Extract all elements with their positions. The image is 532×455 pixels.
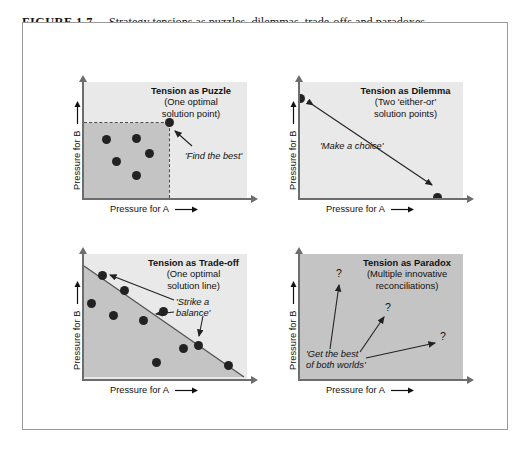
- puzzle-y-axis-label: Pressure for B: [72, 100, 82, 190]
- puzzle-leader-arrow: [84, 82, 247, 198]
- paradox-question-mark: ?: [440, 330, 446, 342]
- puzzle-y-axis: [82, 82, 84, 200]
- tradeoff-leader-arrows: [84, 254, 247, 379]
- tradeoff-y-axis-arrow: [79, 247, 87, 254]
- y-label-arrow-icon: [290, 100, 297, 124]
- paradox-y-axis: [298, 254, 300, 381]
- y-axis-label-text: Pressure for B: [288, 131, 298, 190]
- dilemma-y-axis-arrow: [295, 75, 303, 82]
- x-axis-label-text: Pressure for A: [326, 204, 384, 214]
- paradox-y-axis-label: Pressure for B: [288, 280, 298, 370]
- x-label-arrow-icon: [175, 206, 199, 213]
- dilemma-x-axis-label: Pressure for A: [326, 204, 415, 214]
- puzzle-x-axis-arrow: [251, 195, 258, 203]
- tradeoff-y-axis-label: Pressure for B: [72, 280, 82, 370]
- paradox-plot-area: Tension as Paradox (Multiple innovative …: [300, 254, 463, 379]
- x-axis-label-text: Pressure for A: [110, 204, 168, 214]
- panel-dilemma: Tension as Dilemma (Two 'either-or' solu…: [278, 78, 478, 218]
- x-label-arrow-icon: [391, 206, 415, 213]
- x-axis-label-text: Pressure for A: [110, 385, 168, 395]
- dilemma-annotation: 'Make a choice': [320, 141, 384, 152]
- tradeoff-plot-area: Tension as Trade-off (One optimal soluti…: [84, 254, 247, 379]
- paradox-x-axis-arrow: [467, 376, 474, 384]
- puzzle-y-axis-arrow: [79, 75, 87, 82]
- paradox-x-axis: [298, 379, 468, 381]
- y-axis-label-text: Pressure for B: [72, 311, 82, 370]
- y-label-arrow-icon: [74, 100, 81, 124]
- dilemma-subtitle-1: (Two 'either-or': [375, 96, 436, 107]
- dilemma-caption: Tension as Dilemma (Two 'either-or' solu…: [348, 85, 463, 119]
- tradeoff-x-axis: [82, 379, 252, 381]
- paradox-question-mark: ?: [336, 267, 342, 279]
- dilemma-y-axis-label: Pressure for B: [288, 100, 298, 190]
- y-axis-label-text: Pressure for B: [72, 131, 82, 190]
- dilemma-subtitle-2: solution points): [374, 108, 437, 119]
- dilemma-y-axis: [298, 82, 300, 200]
- paradox-question-mark: ?: [385, 301, 391, 313]
- dilemma-x-axis: [298, 198, 468, 200]
- tradeoff-x-axis-arrow: [251, 376, 258, 384]
- dilemma-title: Tension as Dilemma: [361, 85, 451, 96]
- y-axis-label-text: Pressure for B: [288, 311, 298, 370]
- x-label-arrow-icon: [175, 387, 199, 394]
- x-label-arrow-icon: [391, 387, 415, 394]
- x-axis-label-text: Pressure for A: [326, 385, 384, 395]
- panel-puzzle: Tension as Puzzle (One optimal solution …: [62, 78, 262, 218]
- tradeoff-y-axis: [82, 254, 84, 381]
- panel-tradeoff: Tension as Trade-off (One optimal soluti…: [62, 250, 262, 400]
- puzzle-x-axis-label: Pressure for A: [110, 204, 199, 214]
- dilemma-x-axis-arrow: [467, 195, 474, 203]
- dilemma-plot-area: Tension as Dilemma (Two 'either-or' solu…: [300, 82, 463, 198]
- paradox-y-axis-arrow: [295, 247, 303, 254]
- tradeoff-x-axis-label: Pressure for A: [110, 385, 199, 395]
- puzzle-x-axis: [82, 198, 252, 200]
- paradox-reconciliation-arrows: [300, 254, 463, 379]
- puzzle-plot-area: Tension as Puzzle (One optimal solution …: [84, 82, 247, 198]
- y-label-arrow-icon: [74, 280, 81, 304]
- y-label-arrow-icon: [290, 280, 297, 304]
- paradox-x-axis-label: Pressure for A: [326, 385, 415, 395]
- panel-paradox: Tension as Paradox (Multiple innovative …: [278, 250, 478, 400]
